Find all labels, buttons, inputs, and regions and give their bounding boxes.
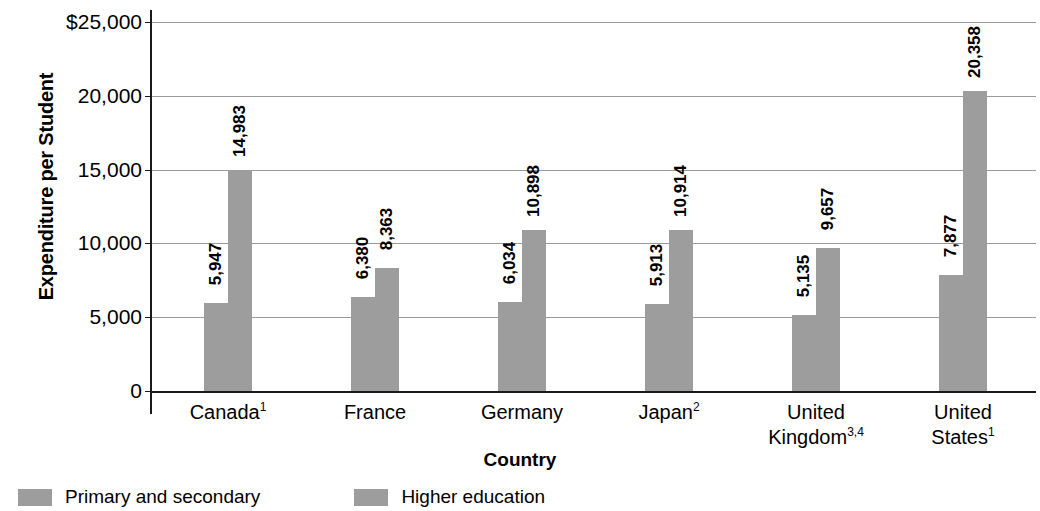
bar-primary-secondary	[498, 302, 522, 391]
y-axis-tick	[145, 243, 152, 244]
x-axis-tick-label: Germany	[447, 400, 597, 425]
y-axis-tick	[145, 391, 152, 392]
bar-value-label: 5,947	[206, 233, 226, 295]
bar-group: 6,03410,898	[498, 22, 546, 391]
bar-primary-secondary	[645, 304, 669, 391]
bar-group: 5,91310,914	[645, 22, 693, 391]
bar-group: 5,1359,657	[792, 22, 840, 391]
bar-value-label: 10,898	[524, 160, 544, 222]
bar-chart-figure: Expenditure per Student $25,00020,00015,…	[0, 0, 1040, 511]
y-axis-tick-label: 10,000	[0, 232, 142, 253]
bar-group: 6,3808,363	[351, 22, 399, 391]
gridline	[152, 22, 1036, 23]
y-axis-tick	[145, 22, 152, 23]
y-axis-tick	[145, 317, 152, 318]
gridline	[152, 317, 1036, 318]
bar-value-label: 20,358	[965, 21, 985, 83]
footnote-marker: 3,4	[847, 425, 864, 439]
bar-higher-education	[963, 91, 987, 391]
x-axis-label-line: States1	[888, 425, 1038, 450]
bar-value-label: 9,657	[818, 178, 838, 240]
x-axis-label-line: Germany	[447, 400, 597, 425]
legend-swatch	[354, 489, 388, 506]
legend-label: Primary and secondary	[65, 486, 260, 508]
footnote-marker: 1	[988, 425, 995, 439]
x-axis-title: Country	[0, 449, 1040, 471]
plot-area: 5,94714,9836,3808,3636,03410,8985,91310,…	[152, 22, 1036, 391]
legend-item: Primary and secondary	[18, 486, 260, 508]
y-axis-tick-label: 5,000	[0, 306, 142, 327]
bar-higher-education	[375, 268, 399, 391]
x-axis-tick-label: France	[300, 400, 450, 425]
x-axis-tick-label: UnitedKingdom3,4	[741, 400, 891, 450]
bar-value-label: 7,877	[941, 205, 961, 267]
gridline	[152, 96, 1036, 97]
bar-value-label: 10,914	[671, 160, 691, 222]
gridline	[152, 243, 1036, 244]
legend-item: Higher education	[354, 486, 545, 508]
y-axis-line	[150, 10, 152, 414]
y-axis-tick-label: 15,000	[0, 159, 142, 180]
bar-group: 7,87720,358	[939, 22, 987, 391]
x-axis-label-line: Kingdom3,4	[741, 425, 891, 450]
y-axis-tick	[145, 170, 152, 171]
bar-primary-secondary	[792, 315, 816, 391]
x-axis-tick-label: UnitedStates1	[888, 400, 1038, 450]
y-axis-tick	[145, 96, 152, 97]
bar-primary-secondary	[939, 275, 963, 391]
bar-value-label: 14,983	[230, 100, 250, 162]
bar-value-label: 5,913	[647, 234, 667, 296]
bar-primary-secondary	[351, 297, 375, 391]
x-axis-label-line: United	[741, 400, 891, 425]
x-axis-label-line: Canada1	[153, 400, 303, 425]
footnote-marker: 2	[693, 400, 700, 414]
bar-higher-education	[228, 170, 252, 391]
x-axis-label-line: France	[300, 400, 450, 425]
chart-legend: Primary and secondaryHigher education	[18, 486, 545, 508]
footnote-marker: 1	[260, 400, 267, 414]
bar-value-label: 6,380	[353, 227, 373, 289]
bar-value-label: 5,135	[794, 245, 814, 307]
x-axis-label-line: United	[888, 400, 1038, 425]
bar-higher-education	[522, 230, 546, 391]
bar-value-label: 6,034	[500, 232, 520, 294]
y-axis-tick-label: 0	[0, 380, 142, 401]
bar-primary-secondary	[204, 303, 228, 391]
x-axis-line	[150, 391, 1036, 393]
x-axis-tick-label: Canada1	[153, 400, 303, 425]
x-axis-tick-label: Japan2	[594, 400, 744, 425]
y-axis-tick-label: 20,000	[0, 85, 142, 106]
bar-higher-education	[816, 248, 840, 391]
y-axis-tick-label: $25,000	[0, 11, 142, 32]
gridline	[152, 170, 1036, 171]
x-axis-label-line: Japan2	[594, 400, 744, 425]
bar-higher-education	[669, 230, 693, 391]
legend-label: Higher education	[401, 486, 545, 508]
bar-group: 5,94714,983	[204, 22, 252, 391]
legend-swatch	[18, 489, 52, 506]
bar-value-label: 8,363	[377, 198, 397, 260]
